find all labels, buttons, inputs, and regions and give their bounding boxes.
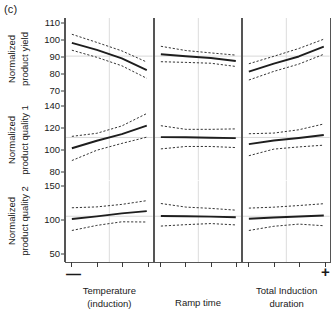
plot-panel-r1-c0 (65, 99, 154, 180)
y-axis-title-row-0-line-0: Normalized (7, 35, 17, 83)
x-tick-mark (274, 262, 275, 267)
x-tick-mark (299, 262, 300, 267)
plot-grid (65, 18, 331, 262)
x-axis-group-label-0: Temperature(induction) (65, 285, 154, 310)
plot-panel-r2-c0 (65, 181, 154, 262)
figure-container: (c) 1101009080701401201008015010050 Norm… (0, 0, 335, 317)
x-axis-group-label-2: Total Inductionduration (242, 285, 331, 310)
x-tick-mark (185, 262, 186, 267)
plot-row-0 (65, 18, 331, 99)
plot-panel-r0-c2 (242, 18, 331, 99)
x-tick-mark (148, 262, 149, 267)
plot-panel-r0-c1 (154, 18, 243, 99)
y-tick-label: 150 (44, 181, 60, 191)
y-tick-label: 100 (44, 215, 60, 225)
plot-panel-r2-c1 (154, 181, 243, 262)
plot-panel-r2-c2 (242, 181, 331, 262)
x-axis-low-extreme-label: — (66, 268, 81, 280)
y-axis-title-row-1-line-0: Normalized (7, 116, 17, 164)
plot-row-2 (65, 181, 331, 262)
y-tick-label: 70 (49, 86, 60, 96)
y-tick-label: 120 (44, 123, 60, 133)
figure-caption: (c) (4, 3, 17, 15)
y-axis-row-1: 14012010080 (38, 99, 65, 180)
plot-panel-r0-c0 (65, 18, 154, 99)
x-axis-group-label-1: Ramp time (154, 297, 243, 310)
plot-row-1 (65, 99, 331, 180)
y-axis-title-row-2-line-1: product quality 2 (20, 186, 30, 256)
y-axis-row-2: 15010050 (38, 181, 65, 262)
y-axis-row-0: 110100908070 (38, 18, 65, 99)
plot-panel-r1-c2 (242, 99, 331, 180)
x-tick-mark (160, 262, 161, 267)
x-axis-group-label-line1: Total Induction (242, 285, 331, 298)
x-axis-group-label-line1: Temperature (65, 285, 154, 298)
y-axis-title-row-2-line-0: Normalized (7, 197, 17, 245)
y-tick-label: 100 (44, 35, 60, 45)
x-axis-group-label-line2: (induction) (65, 298, 154, 311)
y-axis-title-row-0-line-1: product yield (20, 32, 30, 86)
y-tick-label: 80 (49, 69, 60, 79)
x-axis-line (65, 262, 331, 263)
x-axis-group-label-line1: Ramp time (154, 297, 243, 310)
y-tick-label: 110 (45, 18, 60, 28)
x-tick-mark (97, 262, 98, 267)
x-tick-mark (122, 262, 123, 267)
y-tick-label: 80 (49, 167, 60, 177)
x-axis-group-label-line2: duration (242, 298, 331, 311)
y-tick-label: 90 (49, 52, 60, 62)
x-axis-high-extreme-label: + (321, 266, 330, 278)
y-tick-label: 100 (44, 145, 60, 155)
x-tick-mark (248, 262, 249, 267)
y-axis-title-row-1-line-1: product quality 1 (20, 105, 30, 175)
x-tick-mark (211, 262, 212, 267)
x-tick-mark (236, 262, 237, 267)
y-tick-label: 50 (49, 249, 60, 259)
y-tick-label: 140 (44, 101, 60, 111)
plot-panel-r1-c1 (154, 99, 243, 180)
